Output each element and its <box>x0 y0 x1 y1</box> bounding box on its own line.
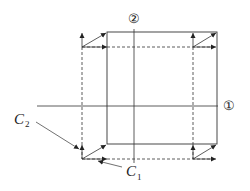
corner-vectors-bottom-right <box>193 145 216 159</box>
c1-label: C1 <box>126 163 142 182</box>
c2-pointer-arrow <box>36 122 79 149</box>
c1-pointer-arrow <box>98 161 122 167</box>
front-square <box>107 32 217 144</box>
corner-vectors-top-right <box>193 33 216 47</box>
axis-1-label: ① <box>223 98 235 113</box>
corner-vectors-bottom-left <box>82 145 107 159</box>
corner-vectors-top-left <box>82 33 107 47</box>
cube-section-diagram: ② ① C2 C1 <box>0 0 250 191</box>
c2-label: C2 <box>14 111 30 129</box>
axis-2-label: ② <box>128 11 140 26</box>
